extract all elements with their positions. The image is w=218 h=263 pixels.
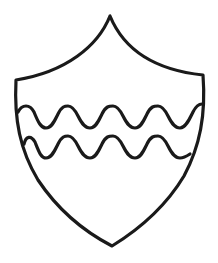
figure-canvas: Heraldic shield with two wavy bars: [0, 0, 218, 263]
shield-icon: [0, 0, 218, 263]
shield-outline: [16, 16, 204, 246]
